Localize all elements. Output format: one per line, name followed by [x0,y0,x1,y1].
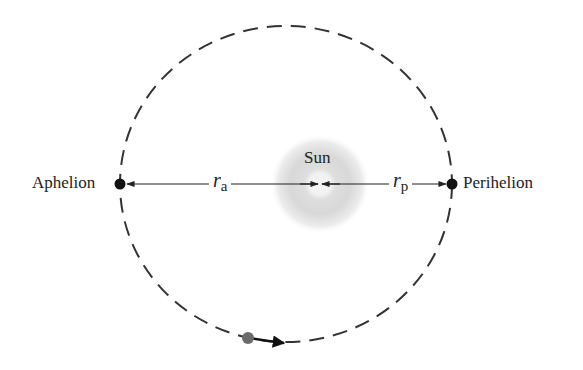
perihelion-distance-label: rp [389,169,412,195]
perihelion-label: Perihelion [463,173,533,193]
planet [242,332,254,344]
ra-subscript: a [221,178,228,194]
ra-symbol: r [213,169,221,191]
aphelion-point [115,179,126,190]
sun-label: Sun [304,148,330,168]
velocity-arrow [250,338,284,343]
rp-subscript: p [401,178,409,194]
aphelion-label: Aphelion [32,173,95,193]
rp-symbol: r [393,169,401,191]
perihelion-point [447,179,458,190]
aphelion-distance-label: ra [209,169,231,195]
